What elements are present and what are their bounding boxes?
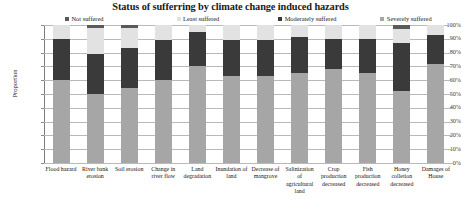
bar-column[interactable]	[248, 25, 282, 163]
bar-stack	[121, 25, 138, 163]
legend-swatch-least-suffered	[177, 17, 181, 21]
bar-segment[interactable]	[87, 94, 104, 163]
legend-label-least-suffered: Least suffered	[183, 15, 219, 23]
legend-swatch-severely-suffered	[380, 17, 384, 21]
bar-segment[interactable]	[121, 88, 138, 163]
chart-legend: Not suffered Least suffered Moderately s…	[55, 13, 450, 24]
bar-segment[interactable]	[223, 25, 240, 40]
bar-segment[interactable]	[257, 40, 274, 76]
bar-segment[interactable]	[291, 73, 308, 163]
legend-swatch-moderately-suffered	[278, 17, 282, 21]
bar-column[interactable]	[112, 25, 146, 163]
bar-segment[interactable]	[53, 39, 70, 80]
bar-column[interactable]	[146, 25, 180, 163]
bar-segment[interactable]	[121, 48, 138, 88]
legend-label-not-suffered: Not suffered	[72, 15, 104, 23]
x-tick-label: Land degradation	[180, 166, 214, 206]
x-tick-label: Crop production decreased	[317, 166, 351, 206]
x-tick-label: Flood hazard	[44, 166, 78, 206]
bar-segment[interactable]	[359, 73, 376, 163]
bar-stack	[427, 25, 444, 163]
x-tick-label: Fish production decreased	[351, 166, 385, 206]
bar-column[interactable]	[317, 25, 351, 163]
bar-stack	[189, 25, 206, 163]
x-tick-label: Honey colletion decreased	[385, 166, 419, 206]
bar-stack	[155, 25, 172, 163]
legend-label-moderately-suffered: Moderately suffered	[285, 15, 337, 23]
gridline	[44, 163, 453, 164]
bar-segment[interactable]	[291, 37, 308, 73]
x-tick-label: River bank erosion	[78, 166, 112, 206]
chart-title: Status of sufferring by climate change i…	[0, 1, 461, 13]
bar-segment[interactable]	[121, 28, 138, 49]
bar-segment[interactable]	[155, 40, 172, 80]
bar-stack	[359, 25, 376, 163]
plot-area	[44, 25, 453, 163]
x-axis-labels: Flood hazardRiver bank erosionSoil erosi…	[44, 166, 453, 206]
legend-item-moderately-suffered: Moderately suffered	[274, 15, 380, 23]
bar-stack	[257, 25, 274, 163]
legend-item-not-suffered: Not suffered	[55, 15, 163, 23]
x-tick-label: Salinization of agricultural land	[283, 166, 317, 206]
bar-column[interactable]	[78, 25, 112, 163]
bar-segment[interactable]	[427, 35, 444, 64]
bar-column[interactable]	[214, 25, 248, 163]
y-axis-title: Proportion	[11, 54, 18, 114]
bar-segment[interactable]	[189, 66, 206, 163]
bar-column[interactable]	[283, 25, 317, 163]
x-tick-label: Soil erosion	[112, 166, 146, 206]
bar-stack	[291, 25, 308, 163]
bar-column[interactable]	[385, 25, 419, 163]
bar-segment[interactable]	[223, 40, 240, 76]
bar-segment[interactable]	[155, 80, 172, 163]
bar-column[interactable]	[44, 25, 78, 163]
bar-segment[interactable]	[53, 25, 70, 39]
x-tick-label: Decrease of mangrove	[248, 166, 282, 206]
bar-segment[interactable]	[53, 80, 70, 163]
x-tick-label: Damages of House	[419, 166, 453, 206]
bar-stack	[53, 25, 70, 163]
bar-stack	[325, 25, 342, 163]
bar-segment[interactable]	[325, 69, 342, 163]
bar-stack	[393, 25, 410, 163]
bar-segment[interactable]	[359, 25, 376, 39]
legend-swatch-not-suffered	[65, 17, 69, 21]
bar-stack	[87, 25, 104, 163]
x-tick-label: Change in river flow	[146, 166, 180, 206]
bar-segment[interactable]	[291, 25, 308, 37]
bar-segment[interactable]	[189, 25, 206, 32]
bar-segment[interactable]	[87, 54, 104, 94]
bar-column[interactable]	[419, 25, 453, 163]
bar-segment[interactable]	[427, 64, 444, 163]
bar-segment[interactable]	[359, 39, 376, 74]
bar-segment[interactable]	[223, 76, 240, 163]
bar-segment[interactable]	[325, 39, 342, 69]
bar-segment[interactable]	[393, 29, 410, 43]
bar-segment[interactable]	[427, 25, 444, 35]
bar-column[interactable]	[351, 25, 385, 163]
bar-segment[interactable]	[325, 25, 342, 39]
bar-segment[interactable]	[257, 25, 274, 40]
bar-segment[interactable]	[87, 28, 104, 54]
bar-segment[interactable]	[393, 91, 410, 163]
bar-segment[interactable]	[189, 32, 206, 67]
x-tick-label: Inundation of land	[214, 166, 248, 206]
bar-segment[interactable]	[393, 43, 410, 91]
bar-segment[interactable]	[155, 25, 172, 40]
legend-item-least-suffered: Least suffered	[163, 15, 275, 23]
bar-group	[44, 25, 453, 163]
bar-column[interactable]	[180, 25, 214, 163]
bar-stack	[223, 25, 240, 163]
chart-container: Status of sufferring by climate change i…	[0, 0, 461, 207]
bar-segment[interactable]	[257, 76, 274, 163]
